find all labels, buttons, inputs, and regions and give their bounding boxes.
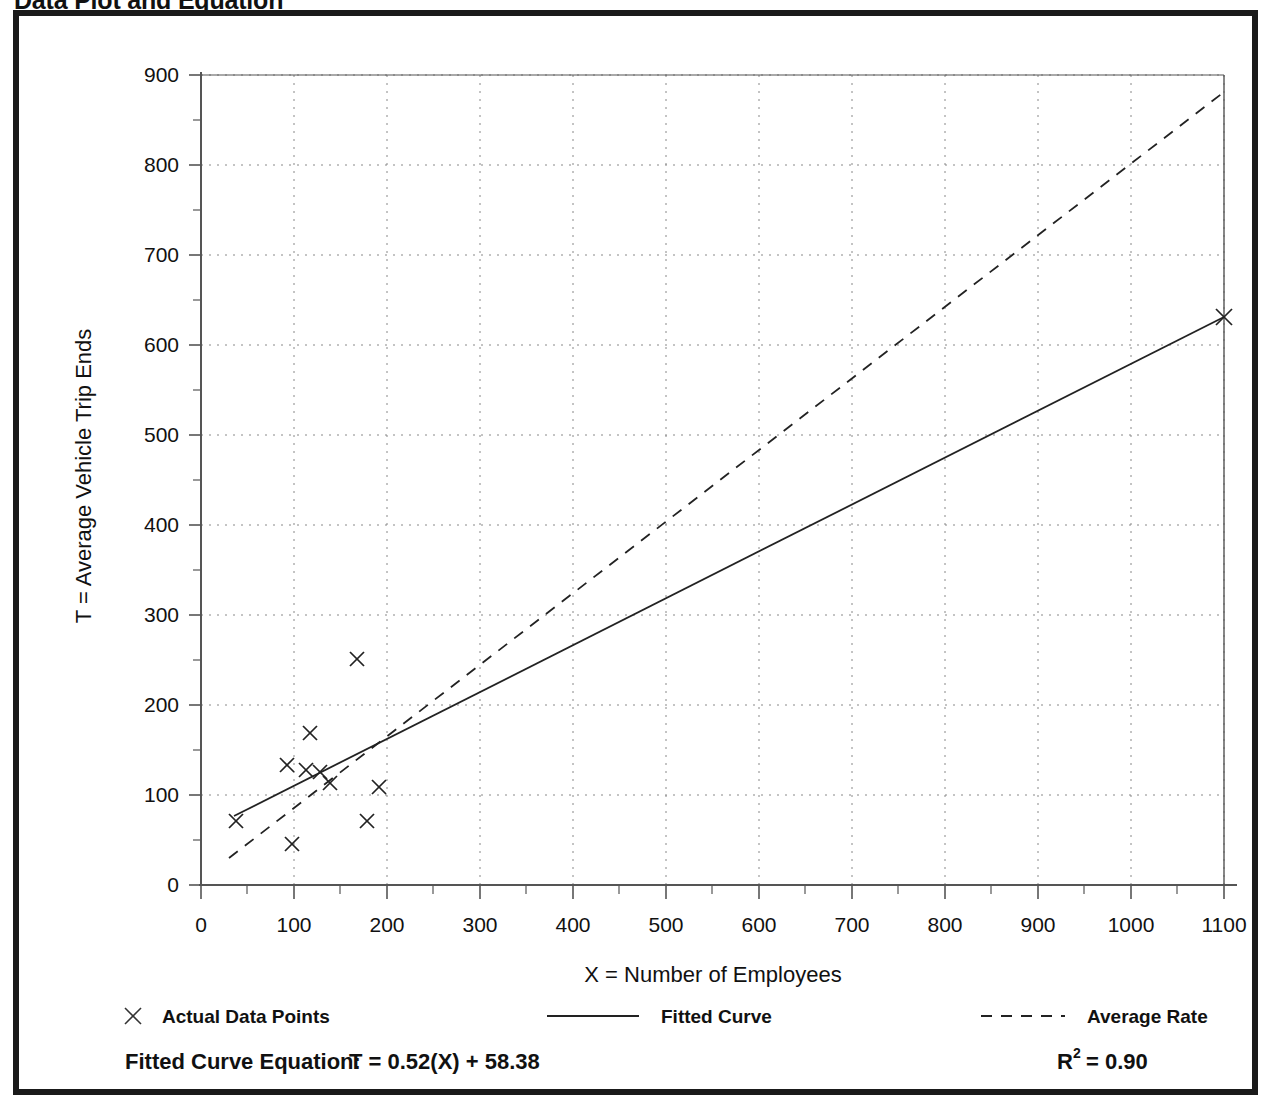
series-fitted-curve-line (234, 317, 1224, 816)
r-squared-value: = 0.90 (1086, 1049, 1148, 1074)
legend-item-fitted-curve[interactable]: Fitted Curve (547, 1006, 772, 1027)
x-tick-label: 300 (462, 913, 497, 936)
y-tick-label: 100 (144, 783, 179, 806)
y-axis-title: T = Average Vehicle Trip Ends (71, 329, 96, 624)
y-tick-label: 700 (144, 243, 179, 266)
legend-item-average-rate[interactable]: Average Rate (981, 1006, 1208, 1027)
y-tick-label: 0 (167, 873, 179, 896)
data-point-marker (350, 652, 364, 666)
y-tick-label: 400 (144, 513, 179, 536)
axis-lines (199, 72, 1237, 885)
y-tick-label: 500 (144, 423, 179, 446)
x-tick-label: 200 (369, 913, 404, 936)
data-point-marker (360, 814, 374, 828)
r-squared-exponent: 2 (1073, 1045, 1081, 1061)
x-axis-ticks (201, 885, 1224, 899)
figure-frame: 900 800 700 600 500 400 300 200 100 0 (13, 10, 1258, 1095)
legend-label: Actual Data Points (162, 1006, 330, 1027)
x-marker-icon (125, 1008, 141, 1024)
x-tick-label: 0 (195, 913, 207, 936)
legend-label: Average Rate (1087, 1006, 1208, 1027)
x-tick-label: 900 (1020, 913, 1055, 936)
data-point-marker (280, 758, 294, 772)
legend-item-actual-data-points[interactable]: Actual Data Points (125, 1006, 330, 1027)
y-axis-tick-labels: 900 800 700 600 500 400 300 200 100 0 (144, 63, 179, 896)
x-axis-title: X = Number of Employees (584, 962, 841, 987)
y-tick-label: 300 (144, 603, 179, 626)
series-actual-data-points (229, 309, 1232, 851)
equation-row: Fitted Curve Equation: T = 0.52(X) + 58.… (125, 1045, 1148, 1074)
y-tick-label: 600 (144, 333, 179, 356)
y-tick-label: 900 (144, 63, 179, 86)
y-tick-label: 200 (144, 693, 179, 716)
x-tick-label: 500 (648, 913, 683, 936)
grid-lines (201, 75, 1224, 885)
data-point-marker (285, 837, 299, 851)
fitted-curve-equation-label: Fitted Curve Equation: (125, 1049, 361, 1074)
chart-legend: Actual Data Points Fitted Curve Average … (125, 1006, 1208, 1027)
x-tick-label: 800 (927, 913, 962, 936)
y-axis-ticks (189, 75, 201, 885)
r-squared-base: R (1057, 1049, 1073, 1074)
data-point-marker (229, 814, 243, 828)
x-tick-label: 400 (555, 913, 590, 936)
x-tick-label: 600 (741, 913, 776, 936)
fitted-curve-equation-value: T = 0.52(X) + 58.38 (349, 1049, 540, 1074)
data-plot-chart: 900 800 700 600 500 400 300 200 100 0 (19, 16, 1252, 1089)
data-point-marker (303, 726, 317, 740)
x-tick-label: 1000 (1108, 913, 1155, 936)
data-point-marker (372, 780, 386, 794)
x-axis-tick-labels: 0 100 200 300 400 500 600 700 800 900 10… (195, 913, 1246, 936)
x-tick-label: 100 (276, 913, 311, 936)
data-point-marker (299, 763, 313, 777)
x-tick-label: 700 (834, 913, 869, 936)
x-tick-label: 1100 (1201, 913, 1246, 936)
y-tick-label: 800 (144, 153, 179, 176)
legend-label: Fitted Curve (661, 1006, 772, 1027)
